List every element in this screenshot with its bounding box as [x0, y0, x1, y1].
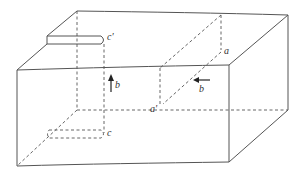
- label-c-prime: c': [107, 32, 114, 42]
- top-face: [17, 11, 288, 162]
- dislocation-line-cc: [48, 44, 105, 138]
- label-a-prime: a': [150, 104, 157, 114]
- slip-plane-aa: [160, 15, 221, 106]
- burgers-vector-vertical: [108, 74, 114, 92]
- hidden-edges: [17, 11, 288, 166]
- label-c: c: [107, 128, 111, 138]
- label-b-horizontal: b: [199, 84, 204, 94]
- label-b-vertical: b: [115, 80, 120, 90]
- label-a: a: [224, 46, 229, 56]
- crystal-block-diagram: [0, 0, 299, 174]
- step-slab-c-prime: [47, 36, 104, 44]
